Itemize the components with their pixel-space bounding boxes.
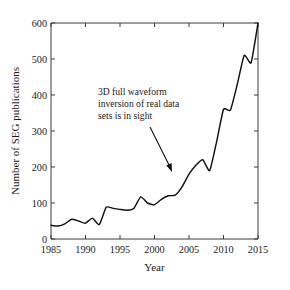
y-axis-title: Number of SEG publications bbox=[9, 67, 21, 195]
y-tick-label: 200 bbox=[32, 162, 47, 173]
y-tick-label: 300 bbox=[32, 126, 47, 137]
x-tick-label: 1990 bbox=[75, 244, 95, 255]
x-tick-label: 2000 bbox=[144, 244, 164, 255]
y-tick-label: 100 bbox=[32, 198, 47, 209]
x-tick-label: 2005 bbox=[179, 244, 199, 255]
y-tick-label: 0 bbox=[42, 234, 47, 245]
x-tick-labels: 1985 1990 1995 2000 2005 2010 2015 bbox=[41, 244, 268, 255]
annotation-line-2: inversion of real data bbox=[98, 98, 180, 109]
x-axis-ticks bbox=[51, 23, 258, 239]
data-series-line bbox=[51, 23, 258, 226]
x-tick-label: 2015 bbox=[248, 244, 268, 255]
annotation-line-1: 3D full waveform bbox=[98, 86, 167, 97]
axes-frame bbox=[51, 23, 258, 239]
annotation-arrow-icon bbox=[150, 127, 172, 172]
y-tick-label: 400 bbox=[32, 90, 47, 101]
x-tick-label: 2010 bbox=[213, 244, 233, 255]
annotation-line-3: sets is in sight bbox=[98, 110, 152, 121]
y-axis-ticks bbox=[51, 23, 258, 239]
y-tick-labels: 0 100 200 300 400 500 600 bbox=[32, 18, 47, 245]
annotation-text: 3D full waveform inversion of real data … bbox=[98, 86, 180, 121]
y-tick-label: 500 bbox=[32, 54, 47, 65]
x-axis-title: Year bbox=[144, 261, 165, 273]
y-tick-label: 600 bbox=[32, 18, 47, 29]
x-tick-label: 1995 bbox=[110, 244, 130, 255]
x-tick-label: 1985 bbox=[41, 244, 61, 255]
chart-figure: 0 100 200 300 400 500 600 1985 1990 1995… bbox=[0, 0, 290, 290]
publications-line-chart: 0 100 200 300 400 500 600 1985 1990 1995… bbox=[0, 0, 290, 290]
